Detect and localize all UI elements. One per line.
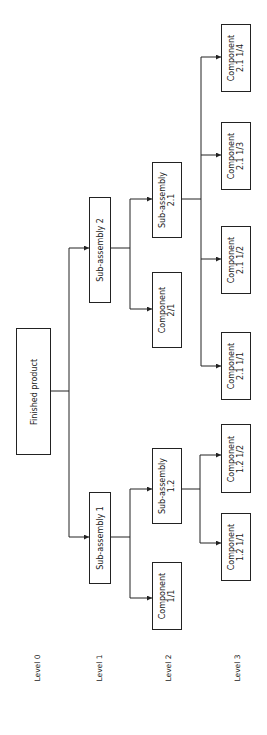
node-component-2-1-1-1: Component2.1 1/1 xyxy=(221,332,251,400)
node-finished-product: Finished product xyxy=(16,328,51,455)
node-component-2-1-1-3: Component2.1 1/3 xyxy=(221,122,251,190)
node-component-2-1: Component2/1 xyxy=(152,272,182,348)
node-sub-assembly-2: Sub-assembly 2 xyxy=(89,197,111,303)
node-component-1-2-1-2: Component1.2 1/2 xyxy=(221,424,251,493)
node-component-1-2-1-1: Component1.2 1/1 xyxy=(221,513,251,581)
node-component-2-1-1-2: Component2.1 1/2 xyxy=(221,226,251,294)
node-component-1-1: Component1/1 xyxy=(152,562,182,630)
node-sub-assembly-2-1: Sub-assembly2.1 xyxy=(152,162,182,238)
node-sub-assembly-1: Sub-assembly 1 xyxy=(89,492,111,584)
node-component-2-1-1-4: Component2.1 1/4 xyxy=(221,24,251,92)
node-sub-assembly-1-2: Sub-assembly1.2 xyxy=(152,448,182,524)
